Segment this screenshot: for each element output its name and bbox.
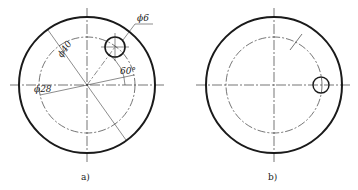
radial-line bbox=[87, 47, 115, 85]
outer-dia-label: ϕ40 bbox=[55, 39, 73, 59]
caption-a: a) bbox=[81, 172, 90, 182]
technical-drawing: ϕ6 ϕ40 ϕ28 60° bbox=[0, 0, 358, 190]
hole-leader bbox=[123, 24, 135, 40]
radial-mark bbox=[290, 34, 302, 50]
figure-b bbox=[196, 8, 352, 162]
caption-b: b) bbox=[268, 172, 277, 182]
pitch-dia-label: ϕ28 bbox=[34, 84, 52, 94]
drawing-stage: ϕ6 ϕ40 ϕ28 60° a) b) bbox=[0, 0, 358, 190]
angle-label: 60° bbox=[120, 66, 136, 76]
hole-dia-label: ϕ6 bbox=[137, 13, 149, 23]
